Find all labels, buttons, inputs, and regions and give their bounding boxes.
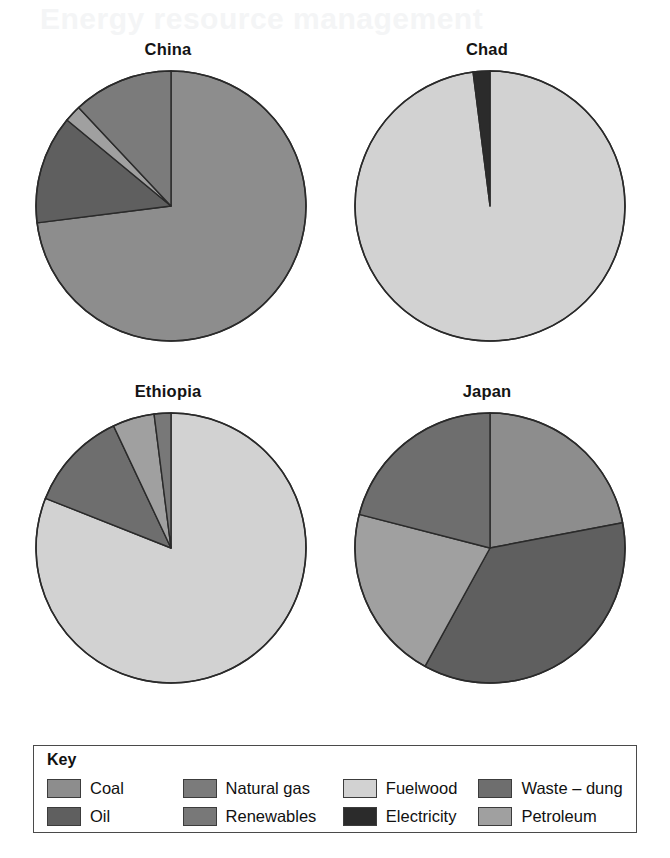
legend-label-coal: Coal <box>90 780 124 797</box>
chart-cell-japan: Japan <box>352 382 622 712</box>
legend-label-renewables: Renewables <box>226 808 317 825</box>
legend-swatch-petroleum <box>478 807 512 826</box>
legend-swatch-waste-dung <box>478 779 512 798</box>
legend-label-natural-gas: Natural gas <box>226 780 310 797</box>
pie-svg <box>33 68 309 344</box>
legend-swatch-coal <box>47 779 81 798</box>
legend-item-waste-dung[interactable]: Waste – dung <box>478 779 625 798</box>
legend-swatch-fuelwood <box>343 779 377 798</box>
pie-japan[interactable] <box>352 410 628 686</box>
chart-cell-ethiopia: Ethiopia <box>33 382 303 712</box>
legend-label-electricity: Electricity <box>386 808 457 825</box>
legend-label-petroleum: Petroleum <box>521 808 596 825</box>
pie-chad[interactable] <box>352 68 628 344</box>
legend-box: Key Coal Natural gas Fuelwood Waste – du… <box>33 745 637 833</box>
legend-item-natural-gas[interactable]: Natural gas <box>183 779 343 798</box>
legend-grid: Coal Natural gas Fuelwood Waste – dung O… <box>47 774 625 830</box>
pie-svg <box>33 410 309 686</box>
legend-label-waste-dung: Waste – dung <box>521 780 622 797</box>
legend-swatch-electricity <box>343 807 377 826</box>
legend-row: Oil Renewables Electricity Petroleum <box>47 802 625 830</box>
legend-item-fuelwood[interactable]: Fuelwood <box>343 779 479 798</box>
legend-swatch-natural-gas <box>183 779 217 798</box>
legend-label-fuelwood: Fuelwood <box>386 780 458 797</box>
pie-svg <box>352 68 628 344</box>
legend-item-coal[interactable]: Coal <box>47 779 183 798</box>
legend-row: Coal Natural gas Fuelwood Waste – dung <box>47 774 625 802</box>
legend-item-electricity[interactable]: Electricity <box>343 807 479 826</box>
legend-item-renewables[interactable]: Renewables <box>183 807 343 826</box>
legend-label-oil: Oil <box>90 808 110 825</box>
pie-china[interactable] <box>33 68 309 344</box>
legend-swatch-renewables <box>183 807 217 826</box>
chart-title-chad: Chad <box>352 40 622 59</box>
chart-title-japan: Japan <box>352 382 622 401</box>
chart-title-china: China <box>33 40 303 59</box>
chart-cell-china: China <box>33 40 303 370</box>
chart-title-ethiopia: Ethiopia <box>33 382 303 401</box>
pie-ethiopia[interactable] <box>33 410 309 686</box>
legend-item-oil[interactable]: Oil <box>47 807 183 826</box>
pie-chart-grid: China Chad Ethiopia Japan <box>0 0 670 740</box>
chart-cell-chad: Chad <box>352 40 622 370</box>
legend-title: Key <box>47 751 76 769</box>
legend-item-petroleum[interactable]: Petroleum <box>478 807 625 826</box>
pie-svg <box>352 410 628 686</box>
legend-swatch-oil <box>47 807 81 826</box>
